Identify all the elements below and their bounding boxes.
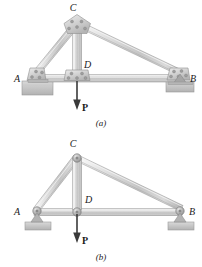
caption-b: (b) — [96, 252, 107, 262]
panel-b: C A B D P (b) — [13, 138, 195, 262]
panel-b-ground-right — [168, 222, 194, 230]
load-arrow-a — [73, 81, 81, 110]
label-a-A: A — [13, 73, 21, 84]
panel-b-ground-left — [25, 222, 51, 230]
load-arrow-b — [73, 214, 81, 243]
label-a-C: C — [70, 2, 77, 13]
member-a-AB — [32, 75, 184, 83]
member-b-CB — [77, 156, 184, 212]
joint-b-C — [73, 154, 81, 162]
joint-a-C — [64, 15, 91, 34]
panel-a: C A B D P (a) — [13, 2, 196, 128]
truss-figure: C A B D P (a) — [0, 0, 202, 267]
caption-a: (a) — [96, 118, 107, 128]
label-a-D: D — [83, 59, 92, 70]
label-b-P: P — [82, 235, 88, 246]
label-b-B: B — [189, 206, 195, 217]
label-b-C: C — [70, 138, 77, 149]
label-a-P: P — [82, 102, 88, 113]
joint-a-D — [64, 70, 90, 81]
label-b-D: D — [84, 194, 93, 205]
label-a-B: B — [190, 73, 196, 84]
member-b-AB — [34, 209, 182, 216]
label-b-A: A — [13, 206, 21, 217]
truss-diagram-svg: C A B D P (a) — [0, 0, 202, 267]
member-a-CB — [77, 21, 186, 77]
joint-a-A — [27, 68, 48, 83]
member-b-CD — [73, 158, 82, 210]
panel-a-ground-left — [22, 81, 53, 95]
